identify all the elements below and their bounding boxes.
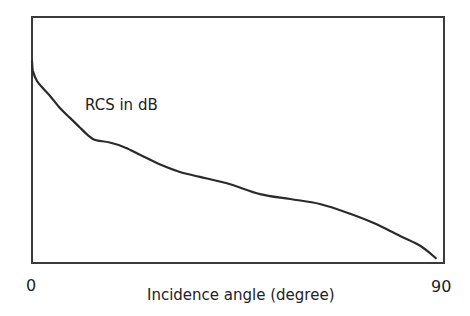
x-axis-label: Incidence angle (degree) xyxy=(147,286,335,304)
series-line-rcs xyxy=(32,61,436,258)
x-tick-label-0: 0 xyxy=(26,276,36,295)
data-points xyxy=(31,60,437,259)
x-tick-label-90: 90 xyxy=(431,277,451,296)
chart: RCS in dB 0 90 Incidence angle (degree) xyxy=(0,0,470,316)
annotation-rcs-in-db: RCS in dB xyxy=(85,96,158,114)
